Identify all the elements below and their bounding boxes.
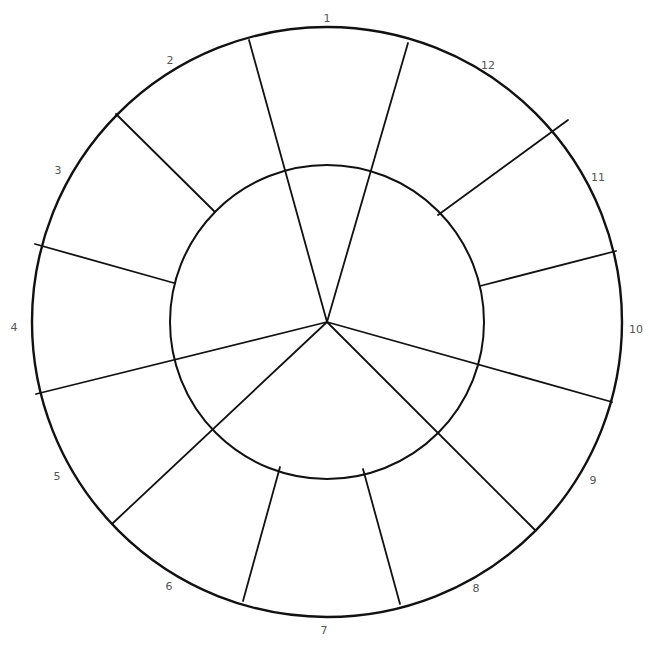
- segment-label-6: 6: [166, 580, 173, 593]
- segment-label-8: 8: [473, 582, 480, 595]
- divider-5-6: [113, 322, 327, 523]
- divider-11-12: [438, 120, 568, 215]
- segment-label-4: 4: [11, 321, 18, 334]
- segment-label-1: 1: [324, 12, 331, 25]
- segment-label-12: 12: [481, 59, 495, 72]
- color-wheel: [0, 0, 649, 646]
- segment-label-9: 9: [590, 474, 597, 487]
- segment-label-10: 10: [629, 323, 643, 336]
- divider-1-2: [249, 40, 327, 322]
- divider-10-11: [480, 251, 616, 286]
- segment-label-5: 5: [54, 470, 61, 483]
- segment-dividers: [35, 40, 616, 604]
- divider-12-1: [327, 43, 408, 322]
- segment-label-7: 7: [321, 624, 328, 637]
- divider-2-3: [116, 114, 215, 212]
- segment-label-11: 11: [591, 171, 605, 184]
- divider-8-9: [327, 322, 535, 530]
- divider-7-8: [363, 469, 400, 604]
- segment-label-3: 3: [55, 164, 62, 177]
- segment-label-2: 2: [167, 54, 174, 67]
- divider-6-7: [243, 467, 280, 601]
- divider-3-4: [35, 244, 174, 283]
